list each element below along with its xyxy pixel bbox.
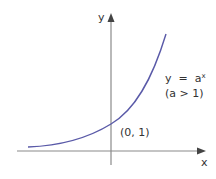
x-axis-arrow-icon [197, 148, 206, 155]
y-axis-label: y [98, 12, 105, 23]
equation-base: y = a [165, 72, 201, 85]
exponential-graph: y x y = ax (a > 1) (0, 1) [0, 0, 216, 179]
y-axis-arrow-icon [108, 13, 115, 22]
equation-label: y = ax [165, 73, 206, 84]
intercept-label: (0, 1) [120, 127, 150, 138]
equation-exponent: x [201, 72, 205, 80]
x-axis-label: x [201, 157, 208, 168]
condition-label: (a > 1) [165, 88, 204, 99]
